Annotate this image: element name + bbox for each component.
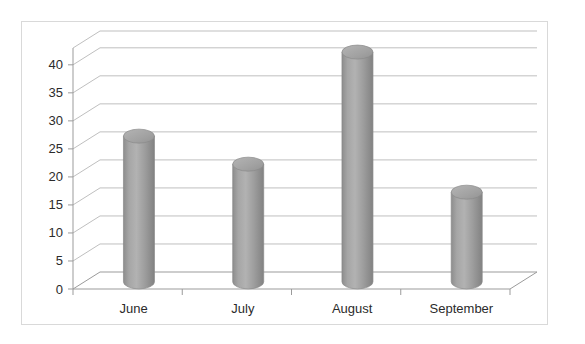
bar-cylinder[interactable] — [342, 45, 373, 289]
y-axis-tick-label: 0 — [56, 282, 63, 297]
bar-top-ellipse — [451, 185, 482, 199]
y-axis-tick-label: 25 — [49, 141, 63, 156]
x-axis-category-label: August — [332, 301, 373, 316]
bar-cylinder[interactable] — [123, 129, 154, 289]
bar-top-ellipse — [233, 157, 264, 171]
bar-top-ellipse — [123, 129, 154, 143]
grid-depth-connector — [73, 160, 100, 177]
y-axis-tick-label: 10 — [49, 225, 63, 240]
bar-series — [123, 45, 482, 289]
chart-container: 0510152025303540 JuneJulyAugustSeptember — [0, 0, 585, 344]
bar-body — [451, 192, 482, 289]
y-axis-tick-label: 5 — [56, 253, 63, 268]
grid-depth-connector — [73, 188, 100, 205]
chart-canvas: 0510152025303540 JuneJulyAugustSeptember — [0, 0, 585, 344]
x-axis-labels: JuneJulyAugustSeptember — [120, 301, 494, 316]
bar-body — [342, 52, 373, 289]
bar-cylinder[interactable] — [451, 185, 482, 289]
y-axis-tick-label: 30 — [49, 113, 63, 128]
plot-top-edge — [73, 31, 537, 48]
bar-top-ellipse — [342, 45, 373, 59]
grid-depth-connector — [73, 216, 100, 233]
grid-depth-connector — [73, 76, 100, 93]
grid-depth-connector — [73, 244, 100, 261]
grid-depth-connector — [73, 104, 100, 121]
bar-body — [123, 136, 154, 289]
y-axis-labels: 0510152025303540 — [49, 57, 63, 296]
bar-body — [233, 164, 264, 289]
y-axis-tick-label: 40 — [49, 57, 63, 72]
grid-depth-connector — [73, 48, 100, 65]
x-axis-category-label: June — [120, 301, 148, 316]
grid-depth-connector — [73, 132, 100, 149]
x-axis-category-label: July — [231, 301, 255, 316]
y-axis-tick-label: 20 — [49, 169, 63, 184]
x-axis-category-label: September — [430, 301, 494, 316]
y-axis-tick-label: 15 — [49, 197, 63, 212]
bar-cylinder[interactable] — [233, 157, 264, 289]
y-axis-tick-label: 35 — [49, 85, 63, 100]
